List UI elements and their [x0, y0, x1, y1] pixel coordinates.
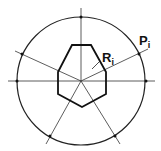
- label-r-main: R: [102, 50, 111, 65]
- radial-line: [81, 81, 120, 144]
- intersection-points: [16, 16, 148, 138]
- label-p-sub: i: [148, 40, 151, 50]
- ri-leader-line: [92, 61, 100, 69]
- diagram-canvas: Ri Pi: [0, 0, 161, 151]
- radial-lines: [8, 8, 155, 144]
- intersection-dot: [21, 53, 24, 56]
- radial-line: [15, 51, 81, 81]
- label-p-main: P: [139, 33, 148, 48]
- intersection-dot: [49, 135, 52, 138]
- intersection-dot: [114, 135, 117, 138]
- inner-polygon: [58, 45, 106, 107]
- intersection-dot: [145, 80, 148, 83]
- label-r-i: Ri: [102, 51, 114, 67]
- label-r-sub: i: [111, 57, 114, 67]
- geometry-figure: [0, 0, 161, 151]
- label-p-i: Pi: [139, 34, 150, 50]
- intersection-dot: [16, 80, 19, 83]
- intersection-dot: [138, 53, 141, 56]
- intersection-dot: [80, 16, 83, 19]
- radial-line: [46, 81, 81, 144]
